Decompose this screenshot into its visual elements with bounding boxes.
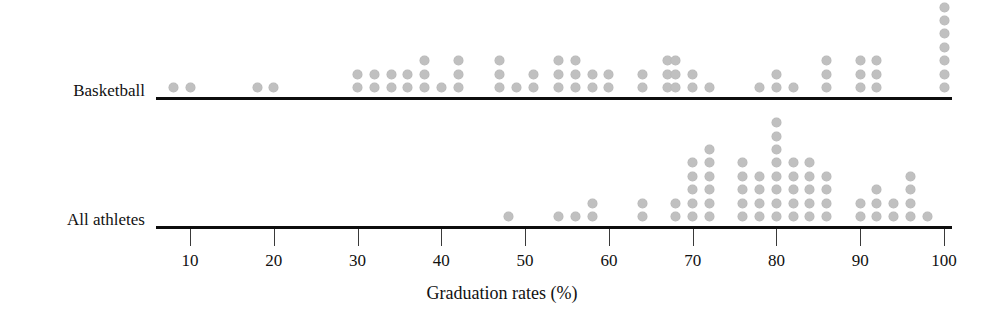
- data-dot: [923, 212, 932, 221]
- data-dot: [772, 145, 781, 154]
- x-axis-tick: [441, 229, 442, 246]
- data-dot: [571, 212, 580, 221]
- data-dot: [738, 185, 747, 194]
- data-dot: [638, 83, 647, 92]
- data-dot: [495, 83, 504, 92]
- data-dot: [253, 83, 262, 92]
- data-dot: [738, 158, 747, 167]
- data-dot: [805, 158, 814, 167]
- data-dot: [940, 16, 949, 25]
- x-axis-tick-label: 20: [244, 252, 304, 269]
- x-axis-tick: [944, 229, 945, 246]
- series-label-all-athletes: All athletes: [0, 211, 145, 228]
- data-dot: [269, 83, 278, 92]
- data-dot: [588, 83, 597, 92]
- data-dot: [688, 185, 697, 194]
- data-dot: [705, 185, 714, 194]
- data-dot: [588, 70, 597, 79]
- data-dot: [554, 70, 563, 79]
- data-dot: [940, 29, 949, 38]
- data-dot: [822, 70, 831, 79]
- data-dot: [822, 199, 831, 208]
- data-dot: [822, 83, 831, 92]
- data-dot: [940, 43, 949, 52]
- data-dot: [789, 172, 798, 181]
- x-axis-tick-label: 30: [328, 252, 388, 269]
- x-axis-tick: [693, 229, 694, 246]
- data-dot: [688, 70, 697, 79]
- data-dot: [495, 70, 504, 79]
- data-dot: [705, 199, 714, 208]
- data-dot: [822, 56, 831, 65]
- data-dot: [872, 83, 881, 92]
- x-axis-tick-label: 50: [495, 252, 555, 269]
- data-dot: [940, 70, 949, 79]
- x-axis-tick-label: 70: [663, 252, 723, 269]
- data-dot: [805, 212, 814, 221]
- data-dot: [856, 83, 865, 92]
- data-dot: [755, 83, 764, 92]
- data-dot: [671, 212, 680, 221]
- data-dot: [789, 212, 798, 221]
- data-dot: [789, 83, 798, 92]
- x-axis-tick-label: 80: [746, 252, 806, 269]
- data-dot: [512, 83, 521, 92]
- data-dot: [529, 83, 538, 92]
- data-dot: [604, 70, 613, 79]
- data-dot: [529, 70, 538, 79]
- data-dot: [504, 212, 513, 221]
- data-dot: [940, 3, 949, 12]
- data-dot: [688, 199, 697, 208]
- x-axis-tick-label: 40: [411, 252, 471, 269]
- data-dot: [738, 199, 747, 208]
- data-dot: [789, 185, 798, 194]
- data-dot: [705, 145, 714, 154]
- data-dot: [588, 199, 597, 208]
- series-baseline-0: [156, 97, 952, 100]
- data-dot: [454, 70, 463, 79]
- data-dot: [772, 172, 781, 181]
- data-dot: [638, 212, 647, 221]
- data-dot: [872, 70, 881, 79]
- data-dot: [856, 212, 865, 221]
- data-dot: [571, 83, 580, 92]
- data-dot: [688, 212, 697, 221]
- data-dot: [822, 185, 831, 194]
- data-dot: [387, 83, 396, 92]
- series-label-basketball: Basketball: [0, 82, 145, 99]
- data-dot: [805, 199, 814, 208]
- data-dot: [772, 83, 781, 92]
- data-dot: [420, 83, 429, 92]
- data-dot: [437, 83, 446, 92]
- series-baseline-1: [156, 226, 952, 229]
- data-dot: [772, 118, 781, 127]
- x-axis-title: Graduation rates (%): [0, 283, 1004, 303]
- data-dot: [772, 70, 781, 79]
- data-dot: [772, 158, 781, 167]
- data-dot: [454, 83, 463, 92]
- x-axis-tick: [525, 229, 526, 246]
- data-dot: [738, 172, 747, 181]
- data-dot: [872, 212, 881, 221]
- data-dot: [889, 199, 898, 208]
- data-dot: [889, 212, 898, 221]
- data-dot: [571, 70, 580, 79]
- data-dot: [688, 158, 697, 167]
- data-dot: [671, 83, 680, 92]
- data-dot: [940, 83, 949, 92]
- data-dot: [755, 199, 764, 208]
- data-dot: [387, 70, 396, 79]
- data-dot: [856, 199, 865, 208]
- data-dot: [403, 70, 412, 79]
- data-dot: [705, 172, 714, 181]
- data-dot: [186, 83, 195, 92]
- x-axis-tick: [190, 229, 191, 246]
- data-dot: [805, 172, 814, 181]
- x-axis-tick-label: 60: [579, 252, 639, 269]
- data-dot: [705, 158, 714, 167]
- data-dot: [906, 199, 915, 208]
- data-dot: [688, 172, 697, 181]
- data-dot: [370, 70, 379, 79]
- x-axis-tick: [609, 229, 610, 246]
- data-dot: [856, 56, 865, 65]
